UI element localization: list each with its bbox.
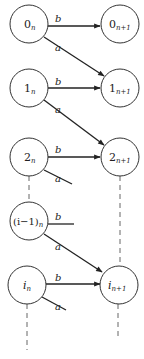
edge-label-a: a: [55, 42, 61, 53]
node-1n: 1n: [10, 69, 48, 107]
edge-label-a: a: [55, 301, 61, 312]
edge-label-b: b: [55, 144, 61, 155]
node-2n: 2n: [10, 138, 48, 176]
edge-im1n-in1-a: [44, 234, 102, 272]
node-in: in: [8, 266, 46, 304]
edge-label-b: b: [55, 272, 61, 283]
edge-label-b: b: [55, 211, 61, 222]
state-diagram: b a b a b a b a b a 0n 0n+1 1n 1n+1 2n 2…: [0, 0, 144, 359]
edge-label-b: b: [55, 76, 61, 87]
edge-label-a: a: [55, 173, 61, 184]
edge-label-b: b: [55, 13, 61, 24]
edge-label-a: a: [55, 104, 61, 115]
node-2n1: 2n+1: [101, 138, 139, 176]
edge-in-a-stub: [42, 297, 66, 310]
node-in1: in+1: [100, 266, 138, 304]
node-1n1: 1n+1: [101, 69, 139, 107]
node-0n: 0n: [10, 5, 48, 43]
edge-0n-1n1-a: [44, 37, 104, 76]
edge-label-a: a: [55, 241, 61, 252]
edge-1n-2n1-a: [44, 100, 104, 145]
node-0n1: 0n+1: [101, 5, 139, 43]
node-im1n: (i−1)n: [10, 202, 48, 240]
